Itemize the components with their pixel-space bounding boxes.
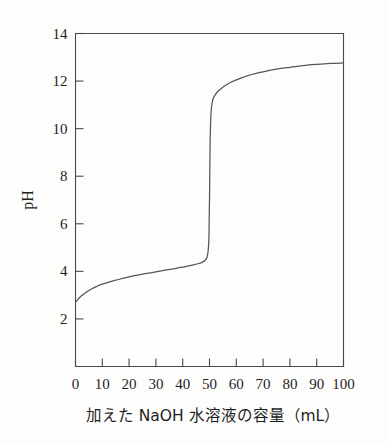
x-axis-ticks: 0102030405060708090100 <box>72 359 355 392</box>
y-axis-ticks: 2468101214 <box>53 26 84 327</box>
titration-curve-figure: 2468101214 0102030405060708090100 pH 加えた… <box>0 0 387 445</box>
y-tick-label: 14 <box>53 26 69 42</box>
x-tick-label: 30 <box>148 376 163 392</box>
x-tick-label: 0 <box>72 376 80 392</box>
x-tick-label: 10 <box>95 376 110 392</box>
y-tick-label: 2 <box>60 311 68 327</box>
x-tick-label: 80 <box>282 376 297 392</box>
y-tick-label: 12 <box>53 73 68 89</box>
y-tick-label: 8 <box>60 168 68 184</box>
x-tick-label: 50 <box>202 376 217 392</box>
x-tick-label: 60 <box>229 376 244 392</box>
data-series-titration-curve <box>76 63 344 302</box>
y-tick-label: 10 <box>53 121 68 137</box>
x-tick-label: 90 <box>309 376 324 392</box>
x-tick-label: 100 <box>332 376 355 392</box>
x-axis-title: 加えた NaOH 水溶液の容量（mL） <box>86 407 341 425</box>
x-tick-label: 40 <box>175 376 190 392</box>
chart-svg: 2468101214 0102030405060708090100 pH 加えた… <box>0 0 387 445</box>
y-tick-label: 4 <box>60 263 68 279</box>
y-tick-label: 6 <box>60 216 68 232</box>
y-axis-title: pH <box>19 190 37 210</box>
x-tick-label: 70 <box>256 376 271 392</box>
x-tick-label: 20 <box>122 376 137 392</box>
